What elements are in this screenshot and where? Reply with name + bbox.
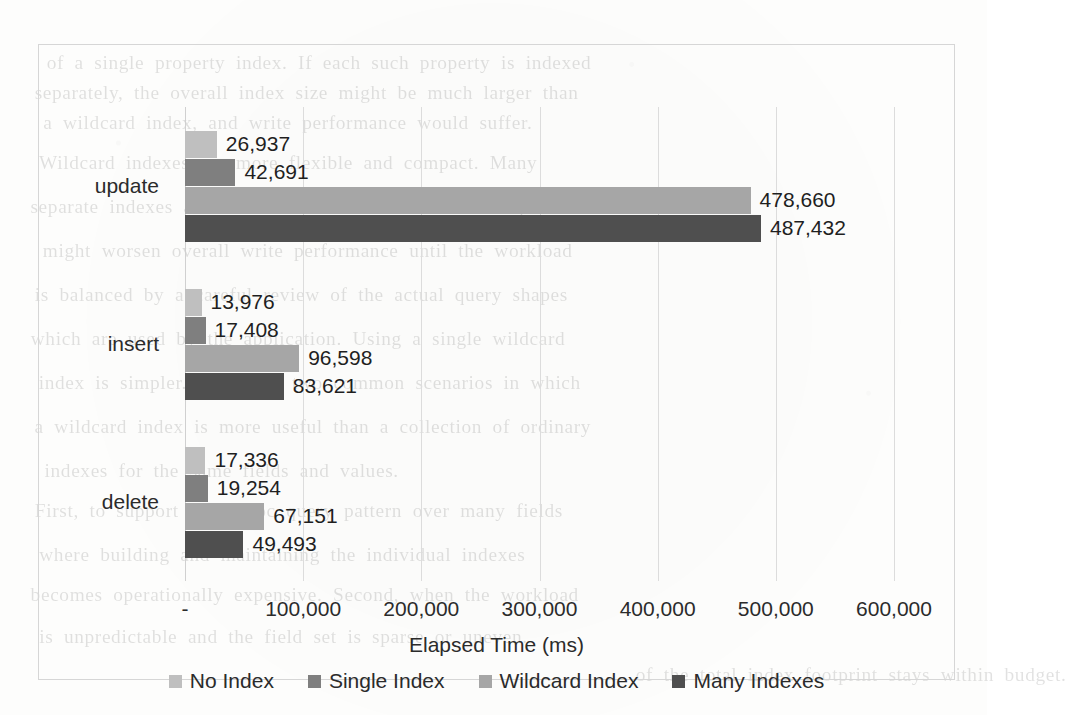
plot-area: update26,93742,691478,660487,432insert13… <box>185 107 894 581</box>
bar-insert-wildcard-index[interactable] <box>185 345 299 372</box>
category-label-update: update <box>95 174 159 198</box>
x-tick-label: 200,000 <box>383 597 459 621</box>
bar-row: 42,691 <box>185 159 894 186</box>
x-axis-title: Elapsed Time (ms) <box>39 633 954 657</box>
legend-swatch-icon <box>672 675 685 688</box>
bar-group-update: update26,93742,691478,660487,432 <box>185 107 894 265</box>
bar-value-label: 17,408 <box>215 318 279 342</box>
chart-frame: update26,93742,691478,660487,432insert13… <box>38 44 955 680</box>
x-tick-label: 100,000 <box>265 597 341 621</box>
legend-label: Single Index <box>329 669 445 693</box>
bar-value-label: 19,254 <box>217 476 281 500</box>
bar-value-label: 67,151 <box>273 504 337 528</box>
chart-legend: No IndexSingle IndexWildcard IndexMany I… <box>39 669 954 693</box>
x-tick-label: 500,000 <box>738 597 814 621</box>
bar-value-label: 42,691 <box>244 160 308 184</box>
x-tick-label: - <box>182 597 189 621</box>
category-label-insert: insert <box>108 332 159 356</box>
legend-label: Many Indexes <box>693 669 824 693</box>
x-axis-tick-labels: -100,000200,000300,000400,000500,000600,… <box>185 597 894 627</box>
bar-group-delete: delete17,33619,25467,15149,493 <box>185 423 894 581</box>
bar-value-label: 49,493 <box>252 532 316 556</box>
bar-row: 19,254 <box>185 475 894 502</box>
legend-item-single-index[interactable]: Single Index <box>308 669 445 693</box>
legend-item-no-index[interactable]: No Index <box>169 669 274 693</box>
bar-value-label: 26,937 <box>226 132 290 156</box>
bar-row: 67,151 <box>185 503 894 530</box>
bar-delete-many-indexes[interactable] <box>185 531 243 558</box>
legend-swatch-icon <box>308 675 321 688</box>
bar-row: 478,660 <box>185 187 894 214</box>
bar-update-many-indexes[interactable] <box>185 215 761 242</box>
bar-stack: 17,33619,25467,15149,493 <box>185 447 894 559</box>
bar-value-label: 13,976 <box>211 290 275 314</box>
bar-value-label: 487,432 <box>770 216 846 240</box>
legend-swatch-icon <box>169 675 182 688</box>
bar-delete-wildcard-index[interactable] <box>185 503 264 530</box>
bar-value-label: 17,336 <box>214 448 278 472</box>
x-tick-label: 600,000 <box>856 597 932 621</box>
x-tick-label: 300,000 <box>502 597 578 621</box>
bar-stack: 26,93742,691478,660487,432 <box>185 131 894 243</box>
bar-value-label: 83,621 <box>293 374 357 398</box>
bar-row: 487,432 <box>185 215 894 242</box>
bar-group-insert: insert13,97617,40896,59883,621 <box>185 265 894 423</box>
bar-insert-no-index[interactable] <box>185 289 202 316</box>
bar-row: 13,976 <box>185 289 894 316</box>
legend-item-many-indexes[interactable]: Many Indexes <box>672 669 824 693</box>
bar-row: 96,598 <box>185 345 894 372</box>
bar-insert-single-index[interactable] <box>185 317 206 344</box>
bar-update-no-index[interactable] <box>185 131 217 158</box>
bar-row: 49,493 <box>185 531 894 558</box>
legend-swatch-icon <box>479 675 492 688</box>
bar-row: 26,937 <box>185 131 894 158</box>
bar-row: 17,408 <box>185 317 894 344</box>
bar-row: 83,621 <box>185 373 894 400</box>
bar-stack: 13,97617,40896,59883,621 <box>185 289 894 401</box>
x-tick-label: 400,000 <box>620 597 696 621</box>
bar-update-single-index[interactable] <box>185 159 235 186</box>
bar-value-label: 478,660 <box>760 188 836 212</box>
gridline <box>894 107 895 581</box>
bar-delete-no-index[interactable] <box>185 447 205 474</box>
bar-value-label: 96,598 <box>308 346 372 370</box>
bar-delete-single-index[interactable] <box>185 475 208 502</box>
bar-insert-many-indexes[interactable] <box>185 373 284 400</box>
category-label-delete: delete <box>102 490 159 514</box>
bar-update-wildcard-index[interactable] <box>185 187 751 214</box>
legend-item-wildcard-index[interactable]: Wildcard Index <box>479 669 639 693</box>
legend-label: No Index <box>190 669 274 693</box>
bar-row: 17,336 <box>185 447 894 474</box>
legend-label: Wildcard Index <box>500 669 639 693</box>
